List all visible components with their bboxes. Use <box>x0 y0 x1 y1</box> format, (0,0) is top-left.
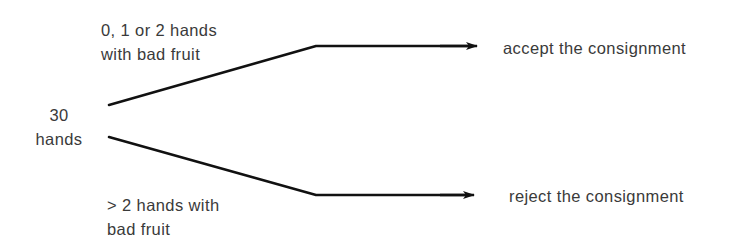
root-label-unit: hands <box>24 127 94 151</box>
reject-condition-line2: bad fruit <box>107 217 170 241</box>
accept-condition-line2: with bad fruit <box>101 42 200 66</box>
root-label-count: 30 <box>24 103 94 127</box>
accept-outcome: accept the consignment <box>503 36 686 60</box>
reject-outcome: reject the consignment <box>509 184 684 208</box>
sampling-decision-diagram: 30 hands 0, 1 or 2 hands with bad fruit … <box>0 0 746 244</box>
accept-condition-line1: 0, 1 or 2 hands <box>101 18 217 42</box>
reject-branch-line <box>109 137 468 195</box>
reject-condition-line1: > 2 hands with <box>107 193 219 217</box>
